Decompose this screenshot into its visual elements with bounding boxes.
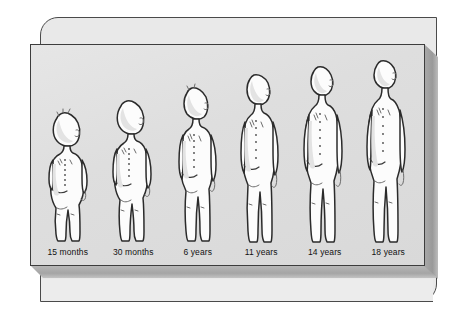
figure-label-15-months: 15 months [47, 247, 88, 257]
figure-body-30-months [105, 92, 161, 244]
figure-body-6-years [171, 79, 225, 244]
figure-body-18-years [361, 52, 415, 244]
figure-label-11-years: 11 years [245, 247, 278, 257]
frame-bevel-bottom [30, 265, 437, 280]
figure-body-11-years [234, 66, 288, 244]
illustration-stage: 15 months [0, 0, 464, 320]
figure-label-6-years: 6 years [183, 247, 212, 257]
figure-body-14-years [298, 58, 352, 244]
figure-item-15-months: 15 months [40, 45, 96, 263]
figure-item-18-years: 18 years [361, 45, 415, 263]
figure-row: 15 months [31, 45, 424, 265]
figure-label-30-months: 30 months [113, 247, 154, 257]
figure-item-14-years: 14 years [298, 45, 352, 263]
figure-item-11-years: 11 years [234, 45, 288, 263]
figure-label-14-years: 14 years [308, 247, 341, 257]
figure-item-6-years: 6 years [171, 45, 225, 263]
figure-item-30-months: 30 months [105, 45, 161, 263]
frame-bevel-right [424, 44, 438, 279]
figure-label-18-years: 18 years [372, 247, 405, 257]
frame-slab-front-face [41, 279, 433, 302]
figure-body-15-months [40, 104, 96, 244]
illustration-panel: 15 months [30, 44, 425, 266]
